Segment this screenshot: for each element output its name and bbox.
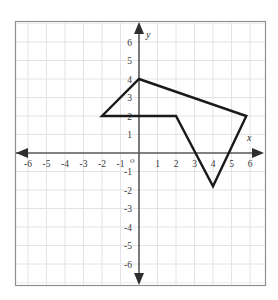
x-tick-label: -2 — [98, 159, 106, 169]
x-tick-label: 6 — [248, 159, 253, 169]
x-axis-name-label: x — [246, 132, 252, 143]
x-tick-label: 3 — [192, 159, 197, 169]
y-tick-label: -5 — [124, 241, 132, 251]
y-tick-label: -6 — [124, 260, 132, 270]
origin-label: o — [130, 155, 135, 165]
y-axis-name-label: y — [145, 29, 151, 40]
x-tick-label: 1 — [155, 159, 160, 169]
y-tick-label: -4 — [124, 223, 132, 233]
y-tick-label: -3 — [124, 204, 132, 214]
y-tick-label: 4 — [127, 75, 132, 85]
x-tick-label: -4 — [61, 159, 69, 169]
x-tick-label: 4 — [211, 159, 216, 169]
coordinate-plane-svg: -6-5-4-3-2-1123456654321-1-2-3-4-5-6 x y… — [0, 0, 278, 300]
x-tick-label: 5 — [229, 159, 234, 169]
y-tick-label: 5 — [127, 56, 132, 66]
y-tick-label: 3 — [127, 93, 132, 103]
x-tick-label: -6 — [24, 159, 32, 169]
x-tick-label: -3 — [80, 159, 88, 169]
y-tick-label: 1 — [127, 130, 132, 140]
y-tick-label: -1 — [124, 167, 132, 177]
y-tick-label: -2 — [124, 186, 132, 196]
coordinate-graph-figure: -6-5-4-3-2-1123456654321-1-2-3-4-5-6 x y… — [0, 0, 278, 300]
x-tick-label: -5 — [43, 159, 51, 169]
y-tick-label: 6 — [127, 38, 132, 48]
x-tick-label: 2 — [174, 159, 179, 169]
